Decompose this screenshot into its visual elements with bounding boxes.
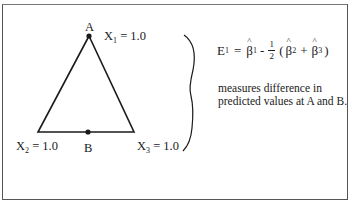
eq-plus: +: [300, 43, 307, 59]
eq-lhs-sub: 1: [225, 46, 229, 55]
label-b: B: [84, 142, 92, 155]
x1-sub: 1: [113, 36, 117, 45]
beta-hat-1: β: [246, 43, 253, 59]
eq-lhs: E: [217, 43, 225, 59]
beta-3-sub: 3: [318, 46, 322, 55]
frac-num: 1: [270, 40, 275, 49]
triangle: [38, 36, 134, 132]
x2-sub: 2: [25, 146, 29, 155]
point-a-marker: [86, 33, 91, 38]
x1-value: = 1.0: [120, 29, 146, 43]
beta-1-sub: 1: [253, 46, 257, 55]
x3-sub: 3: [146, 146, 150, 155]
eq-minus: -: [260, 43, 264, 59]
frac-den: 2: [270, 52, 275, 61]
beta-hat-2: β: [286, 43, 293, 59]
beta-2-sub: 2: [292, 46, 296, 55]
x3-value: = 1.0: [153, 139, 179, 153]
eq-close-paren: ): [324, 43, 328, 59]
label-x3: X3 = 1.0: [137, 140, 179, 155]
x2-var: X: [16, 139, 25, 153]
point-b-marker: [85, 129, 90, 134]
fraction-half: 1 2: [268, 40, 275, 61]
label-x2: X2 = 1.0: [16, 140, 58, 155]
eq-open-paren: (: [279, 43, 283, 59]
equation: E1 = β1 - 1 2 ( β2 + β3 ): [217, 40, 329, 61]
curly-brace: [183, 35, 194, 151]
x1-var: X: [104, 29, 113, 43]
x2-value: = 1.0: [32, 139, 58, 153]
description-text: measures difference in predicted values …: [218, 82, 348, 108]
eq-equals: =: [234, 43, 241, 59]
label-x1: X1 = 1.0: [104, 30, 146, 45]
beta-hat-3: β: [312, 43, 319, 59]
label-a: A: [85, 21, 94, 34]
x3-var: X: [137, 139, 146, 153]
